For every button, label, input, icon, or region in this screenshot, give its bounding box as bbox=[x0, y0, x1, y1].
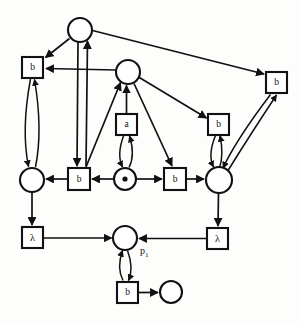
transition-a-center[interactable]: a bbox=[116, 114, 137, 135]
place-p-left[interactable] bbox=[20, 168, 44, 192]
arc-pright-to-lambdaright bbox=[218, 193, 219, 226]
transition-lambda-right[interactable]: λ bbox=[207, 228, 228, 249]
transition-label: b bbox=[173, 174, 178, 184]
arc-layer bbox=[25, 31, 276, 293]
transition-b-bottom[interactable]: b bbox=[117, 282, 138, 303]
transition-b-topright[interactable]: b bbox=[266, 72, 287, 93]
arc-bmidright-to-pright bbox=[211, 136, 216, 168]
place-layer bbox=[20, 18, 232, 303]
transition-b-rowleft[interactable]: b bbox=[68, 168, 90, 190]
place-p-1[interactable] bbox=[113, 226, 137, 250]
arc-pmid-to-bmidright bbox=[139, 77, 207, 118]
transition-b-rowright[interactable]: b bbox=[164, 168, 186, 190]
arc-pcenter-to-acenter bbox=[129, 136, 132, 168]
arc-pleft-to-btopleft bbox=[35, 80, 40, 168]
arc-browleft-to-ptop bbox=[86, 41, 88, 166]
arc-bbottom-to-p1 bbox=[120, 251, 123, 281]
transition-layer: b b a b b b bbox=[22, 57, 287, 303]
place-p-bottomright[interactable] bbox=[160, 281, 182, 303]
arc-btopright-to-pright bbox=[223, 95, 271, 169]
place-label-p1-subscript: 1 bbox=[145, 251, 149, 259]
transition-label: b bbox=[77, 174, 82, 184]
place-p-right[interactable] bbox=[206, 167, 232, 193]
arc-btopleft-to-pleft bbox=[25, 79, 30, 167]
transition-label: b bbox=[216, 119, 221, 129]
arc-pright-to-bmidright bbox=[220, 136, 222, 169]
place-label-p1: p1 bbox=[140, 245, 149, 258]
transition-b-topleft[interactable]: b bbox=[22, 57, 43, 78]
arc-acenter-to-pcenter bbox=[120, 136, 124, 167]
token-dot-p-center bbox=[122, 176, 127, 181]
transition-label: b bbox=[274, 77, 279, 87]
transition-label: b bbox=[30, 62, 35, 72]
petri-net-canvas: b b a b b b bbox=[0, 0, 301, 322]
transition-b-midright[interactable]: b bbox=[208, 114, 229, 135]
arc-ptop-to-btopleft bbox=[46, 39, 70, 58]
petri-net-diagram: b b a b b b bbox=[0, 0, 301, 322]
transition-lambda-left[interactable]: λ bbox=[22, 227, 43, 248]
place-label-layer: p1 bbox=[140, 245, 149, 258]
arc-pright-to-btopright bbox=[228, 95, 277, 171]
place-p-mid[interactable] bbox=[116, 60, 140, 84]
arc-pmid-to-btopleft bbox=[46, 69, 116, 71]
arc-ptop-to-browleft bbox=[77, 42, 78, 166]
place-p-top[interactable] bbox=[68, 18, 92, 42]
arc-p1-to-bbottom bbox=[128, 251, 132, 281]
transition-label: b bbox=[125, 287, 130, 297]
arc-pmid-to-browright bbox=[134, 84, 172, 167]
